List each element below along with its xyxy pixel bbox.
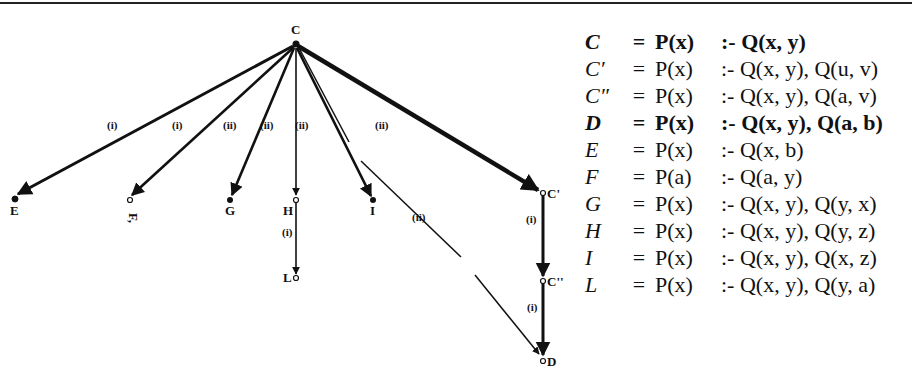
node-c bbox=[293, 41, 300, 48]
node-h bbox=[294, 198, 299, 203]
label-l: L bbox=[283, 270, 292, 285]
definition-row-d: D = P(x) :- Q(x, y), Q(a, b) bbox=[585, 109, 883, 136]
node-c-prime bbox=[541, 191, 546, 196]
definition-row-h: H = P(x) :- Q(x, y), Q(y, z) bbox=[585, 217, 883, 244]
edge-label-c-g: (ii) bbox=[223, 119, 237, 132]
node-f bbox=[128, 198, 133, 203]
definition-row-c-double-prime: C″ = P(x) :- Q(x, y), Q(a, v) bbox=[585, 82, 883, 109]
label-e: E bbox=[10, 203, 19, 218]
definition-row-g: G = P(x) :- Q(x, y), Q(y, x) bbox=[585, 190, 883, 217]
node-e bbox=[12, 196, 18, 202]
node-c-double-prime bbox=[541, 279, 546, 284]
edge-label-c1-c2: (i) bbox=[526, 213, 537, 226]
edge-label-c-f: (i) bbox=[172, 119, 183, 132]
label-d: D bbox=[547, 354, 556, 369]
clause-definitions: C = P(x) :- Q(x, y) C′ = P(x) :- Q(x, y)… bbox=[585, 28, 883, 298]
label-i: I bbox=[370, 203, 375, 218]
edge-label-h-l: (i) bbox=[282, 226, 293, 239]
edge-label-c2-d: (i) bbox=[527, 301, 538, 314]
derivation-graph: C E F, G H I L C' C'' D (i) (i) (ii) (ii… bbox=[0, 0, 580, 377]
edge-label-c-c1: (ii) bbox=[375, 119, 389, 132]
edge-label-c-e: (i) bbox=[107, 119, 118, 132]
edge-c-d-dashed bbox=[299, 48, 539, 354]
node-l bbox=[294, 276, 299, 281]
label-c-double-prime: C'' bbox=[547, 274, 564, 289]
definition-row-c-prime: C′ = P(x) :- Q(x, y), Q(u, v) bbox=[585, 55, 883, 82]
edge-label-c-h: (ii) bbox=[260, 119, 274, 132]
edge-label-c-d: (ii) bbox=[412, 211, 426, 224]
edge-label-c-i: (ii) bbox=[295, 119, 309, 132]
definition-row-f: F = P(a) :- Q(a, y) bbox=[585, 163, 883, 190]
label-c: C bbox=[291, 22, 300, 37]
label-f: F, bbox=[126, 213, 141, 223]
label-c-prime: C' bbox=[547, 186, 560, 201]
definition-row-l: L = P(x) :- Q(x, y), Q(y, a) bbox=[585, 271, 883, 298]
definition-row-i: I = P(x) :- Q(x, y), Q(x, z) bbox=[585, 244, 883, 271]
node-d bbox=[541, 359, 546, 364]
edge-c-c1 bbox=[298, 46, 538, 190]
label-g: G bbox=[225, 203, 235, 218]
label-h: H bbox=[283, 203, 293, 218]
definition-row-e: E = P(x) :- Q(x, b) bbox=[585, 136, 883, 163]
definition-row-c: C = P(x) :- Q(x, y) bbox=[585, 28, 883, 55]
